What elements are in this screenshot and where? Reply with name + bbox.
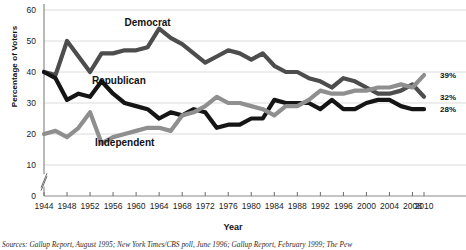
x-tick-label: 1988 — [288, 201, 307, 211]
y-tick-label: 50 — [27, 36, 37, 46]
y-tick-label: 30 — [27, 98, 37, 108]
x-tick-label: 2010 — [415, 201, 434, 211]
x-tick-label: 1948 — [58, 201, 77, 211]
end-label-republican: 28% — [440, 105, 456, 114]
x-tick-label: 1960 — [127, 201, 146, 211]
x-tick-label: 1968 — [173, 201, 192, 211]
end-labels-group: 32%28%39% — [440, 71, 456, 114]
y-axis: 0102030405060 — [27, 4, 47, 201]
x-axis-title: Year — [0, 222, 466, 232]
series-label-democrat: Democrat — [125, 17, 172, 28]
y-tick-label: 60 — [27, 5, 37, 15]
y-tick-label: 20 — [27, 129, 37, 139]
x-tick-label: 1964 — [150, 201, 169, 211]
y-tick-label: 0 — [31, 191, 36, 201]
series-label-independent: Independent — [95, 137, 155, 148]
x-tick-label: 1980 — [242, 201, 261, 211]
x-tick-label: 1976 — [219, 201, 238, 211]
end-label-democrat: 32% — [440, 93, 456, 102]
x-axis: 1944194819521956196019641968197219761980… — [35, 192, 466, 211]
x-tick-label: 1972 — [196, 201, 215, 211]
x-tick-label: 1984 — [265, 201, 284, 211]
x-tick-label: 1992 — [311, 201, 330, 211]
y-tick-label: 40 — [27, 67, 37, 77]
x-tick-label: 1956 — [104, 201, 123, 211]
x-tick-label: 2000 — [357, 201, 376, 211]
chart-container: Percentage of Voters 0102030405060 19441… — [0, 0, 466, 250]
y-tick-label: 10 — [27, 160, 37, 170]
x-tick-label: 1952 — [81, 201, 100, 211]
sources-prefix: Sources: — [2, 240, 28, 249]
sources-text: Gallup Report, August 1995; New York Tim… — [29, 240, 352, 249]
x-tick-label: 1944 — [35, 201, 54, 211]
line-chart-plot: 0102030405060 19441948195219561960196419… — [0, 0, 466, 222]
y-axis-title: Percentage of Voters — [10, 7, 19, 127]
end-label-independent: 39% — [440, 71, 456, 80]
series-line-democrat — [44, 29, 424, 97]
series-label-republican: Republican — [92, 75, 146, 86]
x-tick-label: 1996 — [334, 201, 353, 211]
x-tick-label: 2004 — [380, 201, 399, 211]
sources-note: Sources: Gallup Report, August 1995; New… — [2, 240, 466, 250]
